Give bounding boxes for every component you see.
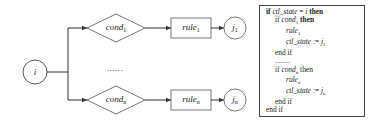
rule-ref-sub: 1 xyxy=(298,31,301,36)
value-j-sub: n xyxy=(323,91,326,96)
rule-base-n: rule xyxy=(182,94,197,104)
condition-base-n: cond xyxy=(106,94,124,104)
rule-ref-sub: n xyxy=(298,80,301,85)
target-label-n: jn xyxy=(232,94,238,107)
variable-ctl-state: ctl_state xyxy=(286,86,311,95)
start-node-text: i xyxy=(34,67,37,77)
condition-label-1: cond1 xyxy=(106,22,127,35)
rule-label-n: rulen xyxy=(182,94,200,107)
keyword-if: if xyxy=(275,15,280,24)
rule-base-1: rule xyxy=(182,22,197,32)
condition-ref: cond xyxy=(281,15,295,24)
code-line-2: if cond1 then xyxy=(266,16,364,27)
target-sub-n: n xyxy=(235,99,238,105)
keyword-then: then xyxy=(300,65,313,74)
rule-ref: rule xyxy=(286,75,298,84)
pseudocode-box: if ctl_state = i then if cond1 then rule… xyxy=(259,5,365,117)
keyword-then: then xyxy=(300,15,314,24)
code-line-7: if condn then xyxy=(266,66,364,77)
rule-ref: rule xyxy=(286,26,298,35)
target-sub-1: 1 xyxy=(235,27,238,33)
keyword-if: if xyxy=(275,65,280,74)
keyword-end-if: end if xyxy=(266,105,283,114)
condition-sub-1: 1 xyxy=(123,27,126,33)
operator-assign: := xyxy=(311,86,321,95)
variable-ctl-state: ctl_state xyxy=(286,37,311,46)
target-label-1: j1 xyxy=(232,22,238,35)
condition-sub-n: n xyxy=(123,99,126,105)
rule-sub-n: n xyxy=(197,99,200,105)
rule-sub-1: 1 xyxy=(197,27,200,33)
condition-ref: cond xyxy=(281,65,295,74)
condition-ref-sub: 1 xyxy=(296,20,299,25)
ellipsis: ...... xyxy=(107,63,124,73)
keyword-if: if xyxy=(266,7,271,16)
start-node-label: i xyxy=(34,67,37,77)
value-j-sub: 1 xyxy=(323,42,326,47)
code-line-11: end if xyxy=(266,106,364,114)
condition-label-n: condn xyxy=(106,94,127,107)
condition-base-1: cond xyxy=(106,22,124,32)
operator-assign: := xyxy=(311,37,321,46)
rule-label-1: rule1 xyxy=(182,22,200,35)
condition-ref-sub: n xyxy=(296,69,299,74)
